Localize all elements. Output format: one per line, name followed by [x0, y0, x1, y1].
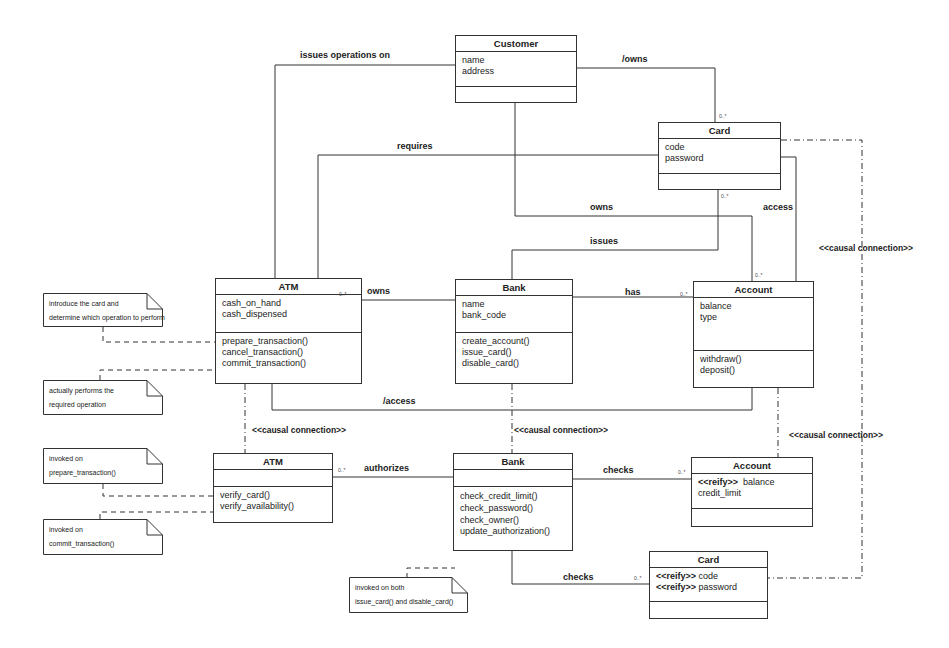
assoc-checks-account: checks: [603, 465, 634, 475]
operation: prepare_transaction(): [222, 336, 355, 347]
attribute-list: <<reify>> code <<reify>> password: [650, 568, 767, 602]
class-bank-meta[interactable]: Bank check_credit_limit() check_password…: [453, 453, 573, 551]
multiplicity-atm-authorizes: 0..*: [338, 467, 346, 473]
class-title: Card: [659, 123, 780, 139]
note-invoked-prepare[interactable]: invoked on prepare_transaction(): [43, 448, 163, 484]
note-line: commit_transaction(): [49, 537, 157, 551]
multiplicity-account-has: 0..*: [680, 291, 688, 297]
assoc-checks-card: checks: [563, 572, 594, 582]
note-invoked-issue-disable[interactable]: invoked on both issue_card() and disable…: [349, 577, 468, 613]
assoc-owns-account: owns: [590, 202, 613, 212]
operation-list: [659, 174, 780, 180]
operation-list: create_account() issue_card() disable_ca…: [456, 333, 572, 372]
attribute-name: password: [699, 582, 738, 592]
note-introduce-card[interactable]: introduce the card and determine which o…: [43, 293, 163, 327]
attribute-name: balance: [743, 477, 775, 487]
causal-connection-card: <<causal connection>>: [819, 243, 913, 253]
note-performs-operation[interactable]: actually performs the required operation: [43, 380, 163, 415]
causal-connection-bank: <<causal connection>>: [514, 425, 608, 435]
assoc-requires: requires: [397, 141, 433, 151]
class-card-meta[interactable]: Card <<reify>> code <<reify>> password: [649, 551, 768, 619]
multiplicity-card-checks: 0..*: [634, 575, 642, 581]
attribute: cash_dispensed: [222, 309, 355, 320]
operation-list: [456, 87, 576, 93]
assoc-slash-access: /access: [383, 396, 416, 406]
operation-list: [692, 509, 812, 515]
attribute: type: [700, 312, 807, 323]
note-line: required operation: [49, 398, 157, 412]
attribute: credit_limit: [698, 488, 806, 499]
class-account-meta[interactable]: Account <<reify>> balance credit_limit: [691, 457, 813, 527]
operation: commit_transaction(): [222, 358, 355, 369]
attribute-list: code password: [659, 139, 780, 174]
note-line: introduce the card and: [49, 297, 157, 311]
attribute: code: [665, 142, 774, 153]
multiplicity-atm-owns: 0..*: [339, 291, 347, 297]
attribute-list: balance type: [694, 298, 813, 351]
operation: verify_availability(): [220, 501, 326, 512]
attribute: balance: [700, 301, 807, 312]
note-line: invoked on both: [355, 581, 462, 595]
stereotype-reify: <<reify>>: [698, 477, 738, 487]
operation-list: withdraw() deposit(): [694, 351, 813, 379]
attribute: name: [462, 299, 566, 310]
note-line: invoked on: [49, 452, 157, 466]
attribute: address: [462, 66, 570, 77]
operation: disable_card(): [462, 358, 566, 369]
multiplicity-account-checks: 0..*: [678, 469, 686, 475]
class-account[interactable]: Account balance type withdraw() deposit(…: [693, 281, 814, 388]
note-invoked-commit[interactable]: invoked on commit_transaction(): [43, 519, 163, 555]
class-title: ATM: [214, 454, 332, 470]
class-title: Account: [694, 282, 813, 298]
assoc-authorizes: authorizes: [364, 463, 409, 473]
operation-list: check_credit_limit() check_password() ch…: [454, 487, 572, 539]
class-title: Bank: [456, 280, 572, 296]
operation: withdraw(): [700, 354, 807, 365]
operation-list: prepare_transaction() cancel_transaction…: [216, 333, 361, 372]
class-title: Account: [692, 458, 812, 474]
class-title: Customer: [456, 36, 576, 52]
attribute-list: [214, 470, 332, 487]
causal-connection-atm: <<causal connection>>: [252, 425, 346, 435]
class-customer[interactable]: Customer name address: [455, 35, 577, 103]
stereotype-reify: <<reify>>: [656, 571, 696, 581]
attribute: name: [462, 55, 570, 66]
operation: issue_card(): [462, 347, 566, 358]
attribute: password: [665, 153, 774, 164]
attribute-list: <<reify>> balance credit_limit: [692, 474, 812, 509]
attribute: <<reify>> password: [656, 582, 761, 593]
class-title: Card: [650, 552, 767, 568]
multiplicity-card-issues: 0..*: [721, 193, 729, 199]
note-line: determine which operation to perform: [49, 311, 157, 325]
attribute-name: code: [699, 571, 719, 581]
note-line: actually performs the: [49, 384, 157, 398]
attribute: <<reify>> code: [656, 571, 761, 582]
class-bank[interactable]: Bank name bank_code create_account() iss…: [455, 279, 573, 384]
operation: verify_card(): [220, 490, 326, 501]
operation: check_owner(): [460, 514, 566, 526]
class-card[interactable]: Card code password: [658, 122, 781, 190]
assoc-access: access: [763, 202, 793, 212]
assoc-atm-owns-bank: owns: [367, 286, 390, 296]
attribute-list: name bank_code: [456, 296, 572, 333]
operation: check_password(): [460, 502, 566, 514]
attribute: <<reify>> balance: [698, 477, 806, 488]
note-line: issue_card() and disable_card(): [355, 595, 462, 609]
attribute: cash_on_hand: [222, 298, 355, 309]
multiplicity-card-owns: 0..*: [719, 113, 727, 119]
causal-connection-account: <<causal connection>>: [789, 430, 883, 440]
operation: cancel_transaction(): [222, 347, 355, 358]
class-atm-meta[interactable]: ATM verify_card() verify_availability(): [213, 453, 333, 523]
note-line: invoked on: [49, 523, 157, 537]
stereotype-reify: <<reify>>: [656, 582, 696, 592]
operation: update_authorization(): [460, 526, 566, 536]
operation: create_account(): [462, 336, 566, 347]
assoc-issues-operations-on: issues operations on: [300, 50, 390, 60]
attribute-list: cash_on_hand cash_dispensed: [216, 295, 361, 333]
assoc-issues: issues: [590, 236, 618, 246]
attribute: bank_code: [462, 310, 566, 321]
attribute-list: [454, 470, 572, 487]
note-line: prepare_transaction(): [49, 466, 157, 480]
multiplicity-account-owns: 0..*: [755, 272, 763, 278]
assoc-owns-card: /owns: [622, 54, 648, 64]
